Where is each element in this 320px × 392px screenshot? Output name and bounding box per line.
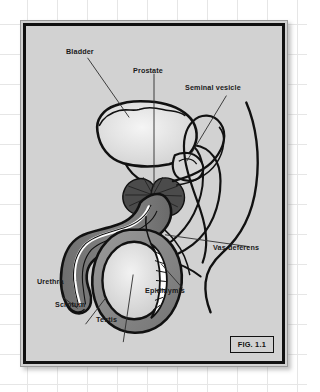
label-epididymis: Epididymis: [145, 287, 185, 294]
label-testis: Testis: [96, 316, 117, 323]
label-seminal-vesicle: Seminal vesicle: [185, 84, 241, 91]
label-urethra: Urethra: [37, 278, 64, 285]
pelvic-outline-path: [205, 103, 257, 313]
label-scrotum: Scrotum: [55, 301, 85, 308]
figure-caption: FIG. 1.1: [230, 336, 274, 353]
label-bladder: Bladder: [66, 48, 94, 55]
figure-inner-border: Bladder Prostate Seminal vesicle Vas def…: [23, 23, 285, 364]
figure-frame: Bladder Prostate Seminal vesicle Vas def…: [20, 20, 288, 367]
anatomy-diagram: [26, 26, 282, 361]
label-vas-deferens: Vas deferens: [213, 244, 259, 251]
label-prostate: Prostate: [133, 67, 163, 74]
